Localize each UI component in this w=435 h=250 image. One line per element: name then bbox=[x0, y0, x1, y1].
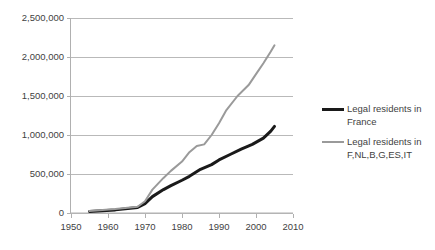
legend-label: Legal residents in France bbox=[347, 103, 433, 128]
series-line bbox=[90, 45, 275, 211]
legend-line-swatch bbox=[322, 108, 344, 111]
legend-label: Legal residents in F,NL,B,G,ES,IT bbox=[347, 136, 433, 161]
chart-legend: Legal residents in FranceLegal residents… bbox=[322, 103, 435, 169]
legend-line-swatch bbox=[322, 141, 344, 143]
legend-entry[interactable]: Legal residents in F,NL,B,G,ES,IT bbox=[322, 136, 435, 161]
series-line bbox=[90, 126, 275, 211]
legend-entry[interactable]: Legal residents in France bbox=[322, 103, 435, 128]
line-chart: 0500,0001,000,0001,500,0002,000,0002,500… bbox=[0, 0, 435, 250]
